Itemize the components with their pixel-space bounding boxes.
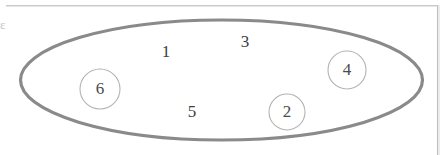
outer-set-ellipse bbox=[21, 20, 423, 140]
set-diagram-canvas bbox=[0, 0, 445, 155]
member-label-3: 3 bbox=[234, 33, 256, 50]
member-label-4: 4 bbox=[336, 61, 358, 78]
figure-page: ε 134652 bbox=[0, 0, 445, 155]
member-label-2: 2 bbox=[276, 103, 298, 120]
member-label-6: 6 bbox=[89, 80, 111, 97]
member-label-5: 5 bbox=[181, 103, 203, 120]
member-label-1: 1 bbox=[155, 43, 177, 60]
